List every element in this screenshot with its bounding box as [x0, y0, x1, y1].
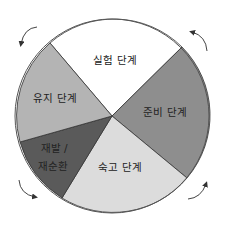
- label-preparation: 준비 단계: [143, 106, 186, 118]
- label-contemplation: 숙고 단계: [98, 161, 141, 173]
- label-experiment: 실험 단계: [93, 54, 136, 66]
- cycle-arrow-bottom-left-icon: [19, 180, 35, 197]
- cycle-arrow-top-right-icon: [192, 32, 207, 51]
- stages-of-change-wheel: 실험 단계 준비 단계 숙고 단계 재발 / 재순환 유지 단계: [0, 0, 225, 238]
- label-relapse-line1: 재발 /: [41, 142, 68, 154]
- cycle-arrow-top-left-icon: [21, 27, 37, 44]
- label-maintenance: 유지 단계: [33, 92, 76, 104]
- label-relapse-line2: 재순환: [38, 160, 68, 172]
- cycle-arrow-bottom-right-icon: [188, 184, 206, 199]
